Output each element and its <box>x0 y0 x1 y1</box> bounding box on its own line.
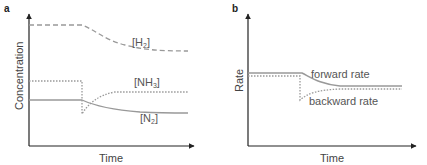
x-axis-label-b: Time <box>320 152 344 164</box>
panel-b: b Rate Time forward rate backward rate <box>232 3 416 164</box>
label-nh3: [NH3] <box>134 76 160 89</box>
y-axis-label-a: Concentration <box>13 42 25 111</box>
series-h2-line <box>29 25 188 51</box>
label-forward-rate: forward rate <box>311 68 370 80</box>
series-n2-line <box>29 100 188 113</box>
label-backward-rate: backward rate <box>309 95 378 107</box>
panel-a: a Concentration Time [H2] [NH3] [N2] <box>4 3 194 164</box>
series-nh3-line <box>29 81 188 114</box>
x-axis-label-a: Time <box>99 152 123 164</box>
label-h2: [H2] <box>132 36 150 49</box>
label-n2: [N2] <box>140 112 158 125</box>
panel-letter-b: b <box>232 3 238 14</box>
panel-letter-a: a <box>4 3 10 14</box>
y-axis-label-b: Rate <box>233 69 245 92</box>
figure: a Concentration Time [H2] [NH3] [N2] b R… <box>0 0 427 165</box>
